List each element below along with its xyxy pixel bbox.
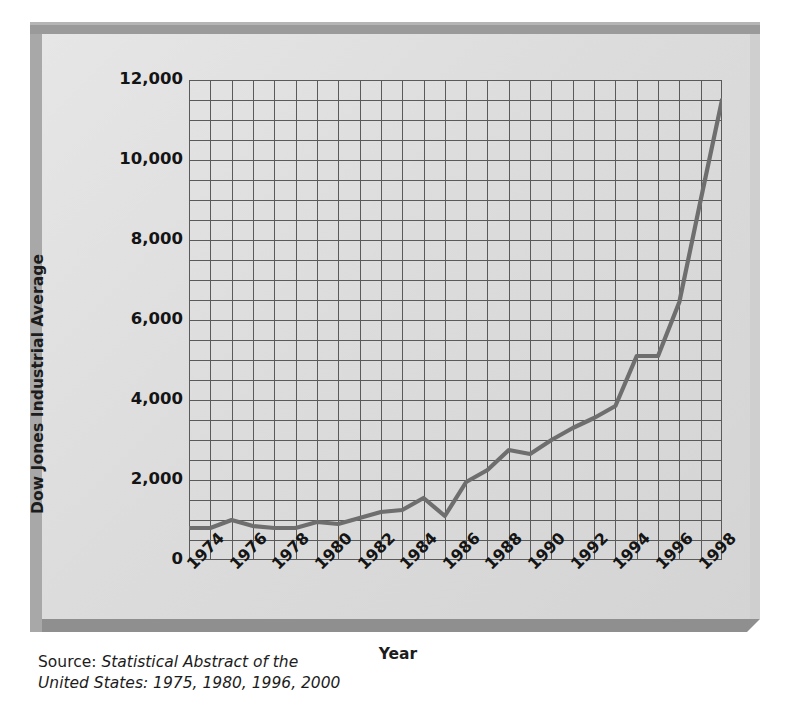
y-axis-title: Dow Jones Industrial Average (29, 194, 47, 574)
source-title-line2: United States: 1975, 1980, 1996, 2000 (38, 674, 340, 692)
y-tick-label: 6,000 (63, 309, 183, 328)
y-tick-label: 12,000 (63, 69, 183, 88)
y-tick-label: 4,000 (63, 389, 183, 408)
data-line (189, 100, 722, 528)
y-tick-label: 0 (63, 549, 183, 568)
y-axis-tick-labels: 12,00010,0008,0006,0004,0002,0000 (57, 80, 183, 560)
plot-area (189, 80, 722, 560)
frame-bevel-top-highlight (30, 22, 760, 25)
x-axis-tick-labels: 1974197619781980198219841986198819901992… (189, 560, 749, 640)
chart-panel: Dow Jones Industrial Average 12,00010,00… (42, 34, 750, 619)
source-note: Source: Statistical Abstract of the Unit… (38, 652, 458, 694)
y-tick-label: 10,000 (63, 149, 183, 168)
data-line-series (189, 80, 722, 560)
source-title-line1: Statistical Abstract of the (101, 653, 298, 671)
frame-bevel-right (750, 34, 760, 619)
y-tick-label: 2,000 (63, 469, 183, 488)
figure-frame: Dow Jones Industrial Average 12,00010,00… (30, 22, 760, 632)
source-label: Source: (38, 653, 96, 671)
y-tick-label: 8,000 (63, 229, 183, 248)
